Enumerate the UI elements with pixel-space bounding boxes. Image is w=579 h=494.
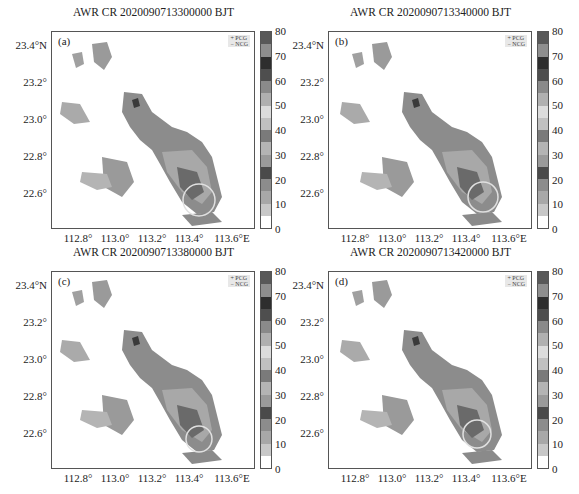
y-tick-label: 23.0°	[0, 113, 47, 125]
colorbar	[537, 271, 549, 469]
x-tick-label: 113.2°	[415, 472, 444, 484]
colorbar-tick-label: 50	[552, 339, 563, 351]
y-tick-label: 22.6°	[277, 427, 324, 439]
colorbar-tick-label: 70	[552, 290, 563, 302]
panel-title: AWR CR 2020090713340000 BJT	[328, 6, 533, 18]
x-tick-label: 112.8°	[64, 472, 93, 484]
y-tick-label: 22.6°	[0, 427, 47, 439]
y-tick-label: 22.6°	[277, 187, 324, 199]
x-tick-label: 113.6°E	[491, 472, 526, 484]
x-tick-label: 113.0°	[101, 472, 130, 484]
y-tick-label: 23.2°	[0, 316, 47, 328]
panel-label: (b)	[335, 35, 348, 47]
colorbar-tick-label: 30	[552, 389, 563, 401]
colorbar-tick-label: 0	[552, 463, 558, 475]
lightning-legend: + PCG− NCG	[228, 275, 250, 287]
panel-label: (a)	[58, 35, 70, 47]
colorbar-tick-label: 60	[552, 75, 563, 87]
colorbar-tick-label: 40	[552, 364, 563, 376]
radar-echo-plot	[52, 32, 255, 229]
panel-a: AWR CR 2020090713300000 BJT (a) + PCG− N…	[0, 0, 289, 247]
y-tick-label: 23.2°	[277, 76, 324, 88]
y-tick-label: 23.0°	[277, 113, 324, 125]
colorbar-tick-label: 80	[552, 265, 563, 277]
y-tick-label: 23.0°	[0, 353, 47, 365]
radar-map: (a) + PCG− NCG	[51, 31, 255, 229]
radar-echo-plot	[329, 272, 532, 469]
colorbar-tick-label: 80	[552, 25, 563, 37]
y-tick-label: 23.2°	[277, 316, 324, 328]
x-tick-label: 113.4°	[452, 472, 481, 484]
y-tick-label: 23.4°N	[0, 279, 47, 291]
radar-map: (b) + PCG− NCG	[328, 31, 532, 229]
x-tick-label: 113.2°	[138, 472, 167, 484]
x-tick-label: 113.4°	[175, 472, 204, 484]
panel-label: (d)	[335, 275, 348, 287]
lightning-legend: + PCG− NCG	[505, 275, 527, 287]
y-tick-label: 23.4°N	[277, 279, 324, 291]
radar-map: (c) + PCG− NCG	[51, 271, 255, 469]
panel-title: AWR CR 2020090713420000 BJT	[328, 246, 533, 258]
panel-c: AWR CR 2020090713380000 BJT (c) + PCG− N…	[0, 240, 289, 487]
colorbar	[260, 31, 272, 229]
y-tick-label: 22.6°	[0, 187, 47, 199]
y-tick-label: 22.8°	[277, 390, 324, 402]
colorbar-tick-label: 20	[552, 414, 563, 426]
y-tick-label: 22.8°	[0, 390, 47, 402]
colorbar-tick-label: 40	[552, 124, 563, 136]
lightning-legend: + PCG− NCG	[505, 35, 527, 47]
lightning-legend: + PCG− NCG	[228, 35, 250, 47]
colorbar-tick-label: 10	[552, 438, 563, 450]
panel-label: (c)	[58, 275, 70, 287]
radar-map: (d) + PCG− NCG	[328, 271, 532, 469]
y-tick-label: 23.0°	[277, 353, 324, 365]
panel-title: AWR CR 2020090713300000 BJT	[51, 6, 256, 18]
colorbar-tick-label: 10	[552, 198, 563, 210]
x-tick-label: 112.8°	[341, 472, 370, 484]
colorbar	[537, 31, 549, 229]
panel-d: AWR CR 2020090713420000 BJT (d) + PCG− N…	[277, 240, 566, 487]
panel-title: AWR CR 2020090713380000 BJT	[51, 246, 256, 258]
y-tick-label: 23.2°	[0, 76, 47, 88]
panel-b: AWR CR 2020090713340000 BJT (b) + PCG− N…	[277, 0, 566, 247]
y-tick-label: 23.4°N	[0, 39, 47, 51]
colorbar-tick-label: 60	[552, 315, 563, 327]
colorbar-tick-label: 70	[552, 50, 563, 62]
colorbar-tick-label: 50	[552, 99, 563, 111]
y-tick-label: 22.8°	[0, 150, 47, 162]
colorbar-tick-label: 20	[552, 174, 563, 186]
colorbar	[260, 271, 272, 469]
radar-echo-plot	[52, 272, 255, 469]
x-tick-label: 113.6°E	[214, 472, 249, 484]
y-tick-label: 22.8°	[277, 150, 324, 162]
colorbar-tick-label: 30	[552, 149, 563, 161]
colorbar-tick-label: 0	[552, 223, 558, 235]
radar-echo-plot	[329, 32, 532, 229]
y-tick-label: 23.4°N	[277, 39, 324, 51]
x-tick-label: 113.0°	[378, 472, 407, 484]
